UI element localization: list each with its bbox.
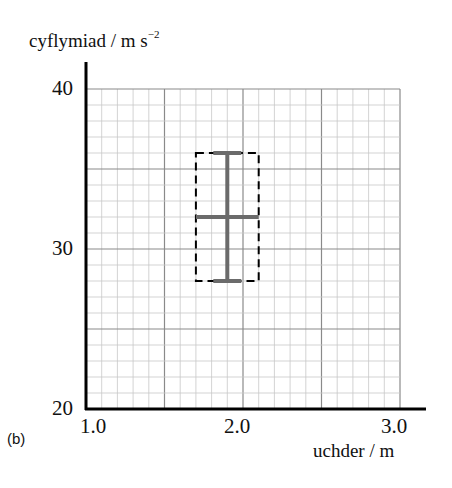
data-marks <box>196 153 259 281</box>
grid <box>86 89 400 409</box>
plot-area <box>0 0 452 488</box>
